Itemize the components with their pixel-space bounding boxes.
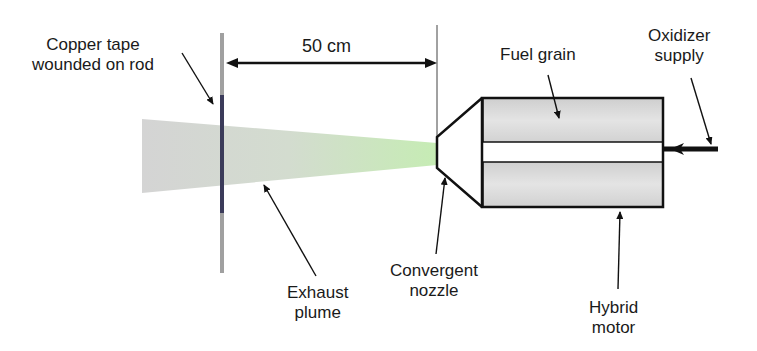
nozzle-pointer — [436, 178, 445, 254]
copper-tape-pointer — [182, 53, 213, 104]
fuel-grain-label: Fuel grain — [500, 45, 576, 65]
copper-tape-rod — [220, 33, 224, 273]
copper-tape-label-line2: wounded on rod — [32, 55, 154, 75]
hybrid-label-line2: motor — [589, 318, 638, 338]
copper-tape-label-line1: Copper tape — [32, 35, 154, 55]
exhaust-label-line1: Exhaust — [287, 283, 348, 303]
hybrid-motor — [437, 98, 718, 207]
hybrid-motor-label: Hybrid motor — [589, 298, 638, 338]
convergent-nozzle-label: Convergent nozzle — [390, 261, 478, 301]
oxidizer-label-line2: supply — [648, 46, 710, 66]
hybrid-label-line1: Hybrid — [589, 298, 638, 318]
exhaust-plume-pointer — [264, 185, 316, 276]
distance-label: 50 cm — [302, 36, 351, 56]
exhaust-plume-label: Exhaust plume — [287, 283, 348, 323]
oxidizer-pointer — [691, 78, 711, 144]
copper-tape-label: Copper tape wounded on rod — [32, 35, 154, 75]
nozzle-label-line1: Convergent — [390, 261, 478, 281]
oxidizer-tube — [663, 143, 718, 155]
oxidizer-label-line1: Oxidizer — [648, 26, 710, 46]
nozzle-label-line2: nozzle — [390, 281, 478, 301]
exhaust-plume — [142, 119, 437, 193]
exhaust-label-line2: plume — [287, 303, 348, 323]
oxidizer-supply-label: Oxidizer supply — [648, 26, 710, 66]
hybrid-motor-pointer — [618, 212, 620, 289]
